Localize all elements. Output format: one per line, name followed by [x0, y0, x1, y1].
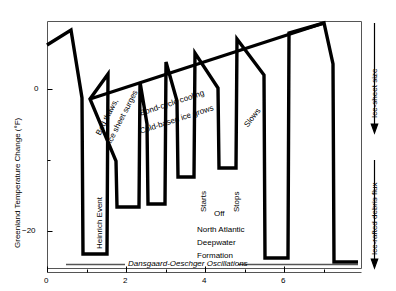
annotation-nadw-line2: Deepwater	[197, 239, 236, 247]
y-tick-minus20: −20	[22, 227, 36, 235]
label-ice-sheet-size: Ice-sheet size	[371, 69, 379, 118]
x-tick-0: 0	[44, 277, 48, 285]
x-tick-4: 4	[202, 277, 206, 285]
y-axis-ticks	[48, 90, 53, 232]
x-tick-2: 2	[123, 277, 127, 285]
annotation-off: Off	[214, 210, 225, 218]
figure-canvas	[0, 0, 396, 291]
annotation-nadw-line1: North Atlantic	[197, 226, 245, 234]
climate-figure: Greenland Temperature Change (°F) 0 −20 …	[0, 0, 396, 291]
label-ice-rafted-debris-flux: Ice-rafted debris flux	[371, 183, 379, 255]
y-axis-label: Greenland Temperature Change (°F)	[14, 118, 22, 248]
x-tick-6: 6	[281, 277, 285, 285]
annotation-heinrich-event: Heinrich Event	[96, 197, 104, 249]
annotation-do-oscillations: Dansgaard-Oeschger Oscillations	[128, 260, 248, 268]
y-tick-0: 0	[34, 85, 38, 93]
annotation-stops: Stops	[233, 192, 241, 212]
annotation-starts: Starts	[200, 191, 208, 212]
